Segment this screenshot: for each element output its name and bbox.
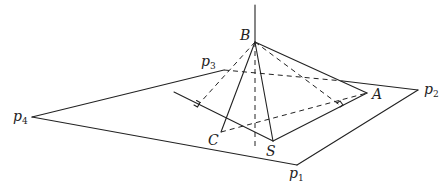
line-through-C-S [174,92,273,141]
label-B: B [239,27,250,43]
edge-p1-p2 [297,90,418,165]
perpendicular-B-to-CS [198,42,255,105]
edge-C-A-hidden [221,93,367,132]
label-S: S [266,143,276,159]
edge-p4-p1 [32,117,297,165]
edge-B-C [221,42,255,132]
edge-S-A [273,93,367,141]
label-C: C [208,132,219,148]
edge-p4-p3 [32,70,224,117]
label-p2: p2 [424,81,439,99]
perpendicular-B-to-SA [255,42,341,106]
edge-B-S [255,42,273,141]
label-p4: p4 [13,108,28,126]
label-A: A [370,86,382,102]
geometry-diagram: B A C S p3 p2 p1 p4 [0,0,448,190]
label-p3: p3 [201,53,216,71]
label-p1: p1 [289,165,304,183]
edge-B-A [255,42,367,93]
